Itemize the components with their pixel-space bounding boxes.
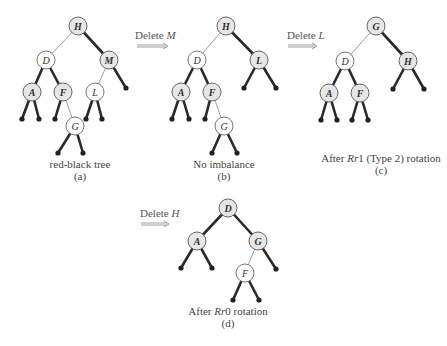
- svg-text:A: A: [177, 87, 185, 98]
- nil-leaf: [19, 116, 24, 121]
- operation-verb: Delete: [287, 29, 316, 41]
- svg-text:F: F: [241, 268, 249, 279]
- svg-text:G: G: [220, 121, 227, 132]
- arrow-delete-h: [141, 221, 169, 227]
- node-a-black: A: [188, 232, 206, 250]
- node-l-black: L: [250, 51, 268, 69]
- caption-label: (d): [178, 317, 278, 329]
- node-h-black: H: [217, 17, 235, 35]
- nil-leaf: [55, 150, 60, 155]
- operation-delete-l: Delete L: [287, 29, 325, 41]
- node-f-black: F: [351, 84, 369, 102]
- nil-leaf: [52, 116, 57, 121]
- node-a-black: A: [320, 84, 338, 102]
- nil-leaf: [256, 297, 261, 302]
- node-h-black: H: [399, 52, 417, 70]
- caption-title: No imbalance: [174, 158, 274, 170]
- nil-leaf: [209, 150, 214, 155]
- caption-a: red-black tree (a): [30, 158, 130, 182]
- node-g-black: G: [367, 17, 385, 35]
- svg-text:D: D: [192, 55, 201, 66]
- operation-key: H: [171, 207, 179, 219]
- svg-text:D: D: [340, 56, 349, 67]
- nil-leaf: [273, 266, 278, 271]
- nil-leaf: [241, 85, 246, 90]
- caption-label: (a): [30, 170, 130, 182]
- svg-text:L: L: [255, 55, 262, 66]
- caption-title: After Rr1 (Type 2) rotation: [316, 152, 446, 164]
- svg-text:F: F: [208, 87, 216, 98]
- operation-key: L: [318, 29, 324, 41]
- node-h-black: H: [69, 17, 87, 35]
- svg-text:H: H: [73, 21, 83, 32]
- tree-panel-a: H D M A F L G: [19, 17, 128, 156]
- nil-leaf: [169, 116, 174, 121]
- caption-c: After Rr1 (Type 2) rotation (c): [316, 152, 446, 176]
- nil-leaf: [123, 85, 128, 90]
- caption-label: (b): [174, 170, 274, 182]
- tree-panel-c: G D H A F: [318, 17, 426, 123]
- nil-leaf: [83, 116, 88, 121]
- node-a-black: A: [172, 83, 190, 101]
- caption-title: red-black tree: [30, 158, 130, 170]
- svg-text:F: F: [356, 88, 364, 99]
- node-g-red: G: [215, 117, 233, 135]
- node-m-black: M: [100, 51, 118, 69]
- caption-d: After Rr0 rotation (d): [178, 305, 278, 329]
- node-f-black: F: [54, 83, 72, 101]
- nil-leaf: [178, 265, 183, 270]
- svg-text:M: M: [104, 55, 115, 66]
- nil-leaf: [234, 150, 239, 155]
- nil-leaf: [365, 117, 370, 122]
- arrow-delete-m: [137, 43, 168, 49]
- svg-text:G: G: [372, 21, 380, 32]
- nil-leaf: [99, 116, 104, 121]
- caption-label: (c): [316, 164, 446, 176]
- nil-leaf: [390, 86, 395, 91]
- svg-text:A: A: [28, 87, 36, 98]
- tree-panel-b: H D L A F G: [169, 17, 278, 156]
- nil-leaf: [230, 297, 235, 302]
- node-f-red: F: [236, 264, 254, 282]
- node-d-red: D: [336, 52, 354, 70]
- node-f-black: F: [203, 83, 221, 101]
- node-d-red: D: [37, 51, 55, 69]
- operation-delete-h: Delete H: [140, 207, 179, 219]
- nil-leaf: [421, 86, 426, 91]
- svg-text:H: H: [221, 21, 231, 32]
- svg-text:G: G: [71, 121, 78, 132]
- svg-text:A: A: [193, 236, 201, 247]
- node-g-black: G: [249, 232, 267, 250]
- operation-verb: Delete: [135, 29, 164, 41]
- svg-text:D: D: [223, 203, 231, 214]
- nil-leaf: [80, 150, 85, 155]
- node-g-red: G: [66, 117, 84, 135]
- svg-text:L: L: [91, 87, 98, 98]
- nil-leaf: [202, 116, 207, 121]
- nil-leaf: [273, 85, 278, 90]
- nil-leaf: [349, 117, 354, 122]
- svg-text:D: D: [41, 55, 50, 66]
- svg-text:F: F: [59, 87, 67, 98]
- operation-verb: Delete: [140, 207, 169, 219]
- node-a-black: A: [23, 83, 41, 101]
- nil-leaf: [186, 116, 191, 121]
- node-d-black: D: [219, 199, 237, 217]
- arrow-delete-l: [288, 43, 317, 49]
- nil-leaf: [334, 117, 339, 122]
- nil-leaf: [209, 265, 214, 270]
- tree-panel-d: D A G F: [178, 199, 278, 303]
- nil-leaf: [318, 117, 323, 122]
- operation-key: M: [166, 29, 175, 41]
- operation-delete-m: Delete M: [135, 29, 176, 41]
- svg-text:H: H: [403, 56, 413, 67]
- nil-leaf: [36, 116, 41, 121]
- node-l-red: L: [86, 83, 104, 101]
- svg-text:G: G: [254, 236, 262, 247]
- caption-b: No imbalance (b): [174, 158, 274, 182]
- node-d-red: D: [188, 51, 206, 69]
- caption-title: After Rr0 rotation: [178, 305, 278, 317]
- svg-text:A: A: [325, 88, 333, 99]
